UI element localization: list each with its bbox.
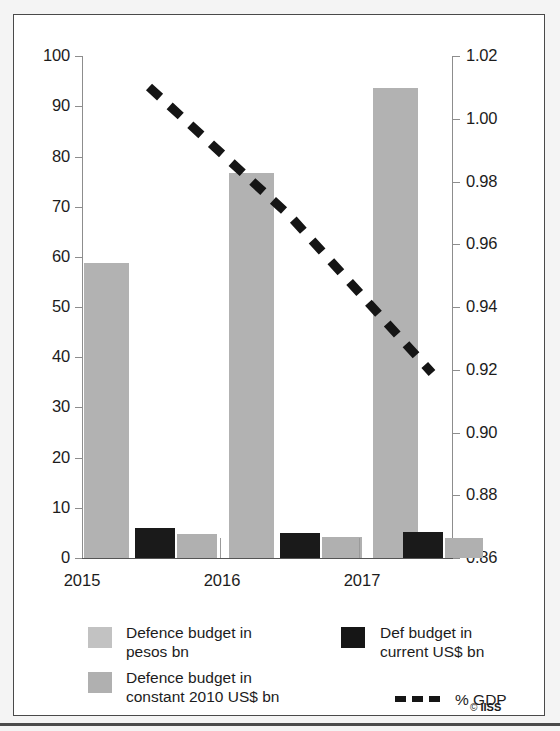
left-axis-label-60: 60	[24, 247, 70, 266]
legend-label-current-line1: Def budget in	[380, 623, 484, 642]
x-axis-label-2015: 2015	[42, 571, 122, 590]
right-axis-label-1-02: 1.02	[466, 46, 526, 65]
left-tick-60	[75, 257, 82, 258]
left-axis-label-100: 100	[24, 46, 70, 65]
left-tick-80	[75, 157, 82, 158]
legend-swatch-current	[341, 627, 365, 648]
left-axis-label-10: 10	[24, 498, 70, 517]
legend-label-constant: Defence budget in constant 2010 US$ bn	[126, 668, 279, 706]
legend-label-constant-line1: Defence budget in	[126, 668, 279, 687]
left-axis-label-0: 0	[24, 548, 70, 567]
right-tick-0-90	[453, 433, 460, 434]
source-label: IISS	[480, 701, 501, 713]
right-tick-1-02	[453, 56, 460, 57]
gdp-dashed-line	[82, 56, 452, 558]
left-tick-30	[75, 407, 82, 408]
bottom-rule	[0, 723, 560, 726]
left-tick-50	[75, 307, 82, 308]
dash-segment-3	[429, 696, 440, 702]
legend-label-current-line2: current US$ bn	[380, 642, 484, 661]
right-axis-label-0-92: 0.92	[466, 360, 526, 379]
copyright-notice: © IISS	[470, 701, 501, 713]
left-axis-label-40: 40	[24, 347, 70, 366]
legend-label-pesos-line2: pesos bn	[126, 642, 252, 661]
right-axis-label-0-88: 0.88	[466, 485, 526, 504]
right-axis-label-0-98: 0.98	[466, 172, 526, 191]
left-axis-label-20: 20	[24, 448, 70, 467]
left-tick-40	[75, 357, 82, 358]
right-axis-label-0-90: 0.90	[466, 423, 526, 442]
left-tick-70	[75, 207, 82, 208]
left-axis-label-80: 80	[24, 147, 70, 166]
right-tick-0-86	[453, 558, 460, 559]
legend-swatch-gdp	[395, 696, 441, 702]
left-tick-10	[75, 508, 82, 509]
right-tick-1-00	[453, 119, 460, 120]
right-tick-0-88	[453, 495, 460, 496]
right-axis-label-0-96: 0.96	[466, 234, 526, 253]
x-axis-label-2017: 2017	[322, 571, 402, 590]
x-axis-line	[82, 558, 453, 559]
dash-segment-2	[412, 696, 423, 702]
legend-swatch-pesos	[88, 627, 112, 648]
right-tick-0-94	[453, 307, 460, 308]
right-tick-0-98	[453, 182, 460, 183]
dash-segment-1	[395, 696, 406, 702]
chart-legend: Defence budget in pesos bn Def budget in…	[28, 615, 545, 715]
legend-label-pesos-line1: Defence budget in	[126, 623, 252, 642]
left-tick-0	[75, 558, 82, 559]
copyright-symbol: ©	[470, 702, 477, 713]
legend-swatch-constant	[88, 672, 112, 693]
right-tick-0-92	[453, 370, 460, 371]
left-axis-label-70: 70	[24, 197, 70, 216]
legend-label-constant-line2: constant 2010 US$ bn	[126, 687, 279, 706]
left-axis-label-90: 90	[24, 96, 70, 115]
left-tick-90	[75, 106, 82, 107]
right-axis-label-1-00: 1.00	[466, 109, 526, 128]
chart-card: 100 90 80 70 60 50 40 30 20 10 0 1.02 1.…	[13, 14, 545, 716]
x-axis-label-2016: 2016	[182, 571, 262, 590]
chart-frame: 100 90 80 70 60 50 40 30 20 10 0 1.02 1.…	[0, 0, 560, 731]
left-axis-label-30: 30	[24, 397, 70, 416]
left-axis-label-50: 50	[24, 297, 70, 316]
left-tick-100	[75, 56, 82, 57]
right-tick-0-96	[453, 244, 460, 245]
legend-label-current: Def budget in current US$ bn	[380, 623, 484, 661]
legend-label-pesos: Defence budget in pesos bn	[126, 623, 252, 661]
right-axis-label-0-94: 0.94	[466, 297, 526, 316]
left-tick-20	[75, 458, 82, 459]
